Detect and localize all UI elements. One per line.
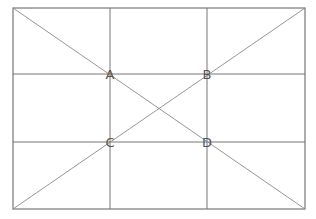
point-label-d: D	[202, 135, 212, 150]
thirds-diagram: A B C D	[0, 0, 316, 219]
point-label-b: B	[203, 67, 212, 82]
point-label-a: A	[106, 67, 115, 82]
point-label-c: C	[105, 135, 114, 150]
